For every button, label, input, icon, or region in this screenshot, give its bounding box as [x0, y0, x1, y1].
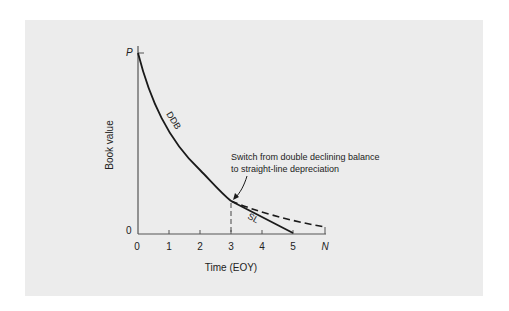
depreciation-chart: P 0 0 1 2 3 4 5 N Time (EOY) Book value … — [0, 0, 509, 311]
x-tick-label-5: 5 — [290, 241, 296, 252]
x-tick-label-4: 4 — [259, 241, 265, 252]
y-zero-label: 0 — [126, 225, 132, 236]
x-tick-label-N: N — [321, 241, 329, 252]
sl-line — [231, 201, 293, 233]
x-tick-label-3: 3 — [228, 241, 234, 252]
ddb-curve — [138, 53, 231, 201]
y-axis-title: Book value — [104, 120, 115, 170]
x-ticks — [169, 227, 325, 234]
annotation-line2: to straight-line depreciation — [231, 164, 339, 174]
x-axis-title: Time (EOY) — [205, 262, 257, 273]
x-tick-label-1: 1 — [166, 241, 172, 252]
y-top-label: P — [126, 47, 133, 58]
sl-line-label: SL — [246, 211, 261, 225]
annotation-arrow — [235, 176, 247, 198]
x-tick-label-0: 0 — [134, 241, 140, 252]
ddb-continuation-dashed — [231, 201, 325, 227]
annotation-line1: Switch from double declining balance — [231, 152, 380, 162]
x-tick-label-2: 2 — [197, 241, 203, 252]
